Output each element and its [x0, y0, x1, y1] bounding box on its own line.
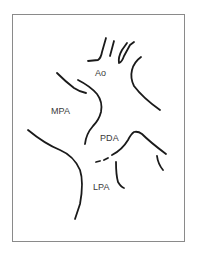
mpa-upper-line — [57, 73, 86, 93]
label-pda: PDA — [100, 134, 119, 143]
lpa-outer-curve — [28, 130, 82, 219]
pda-upper-line — [112, 132, 166, 155]
label-mpa: MPA — [51, 107, 70, 116]
ao-descending — [131, 57, 160, 110]
pda-dashed — [96, 158, 108, 162]
lpa-inner-line — [116, 162, 124, 188]
right-fragment — [157, 156, 163, 170]
ao-vessel-left — [88, 38, 106, 61]
mpa-aorta-border — [78, 80, 102, 144]
vessel-outline-drawing — [0, 0, 197, 259]
label-lpa: LPA — [93, 183, 110, 192]
ao-vessel-mid — [110, 41, 114, 56]
label-ao: Ao — [95, 69, 106, 78]
ao-vessel-branch — [119, 42, 134, 63]
